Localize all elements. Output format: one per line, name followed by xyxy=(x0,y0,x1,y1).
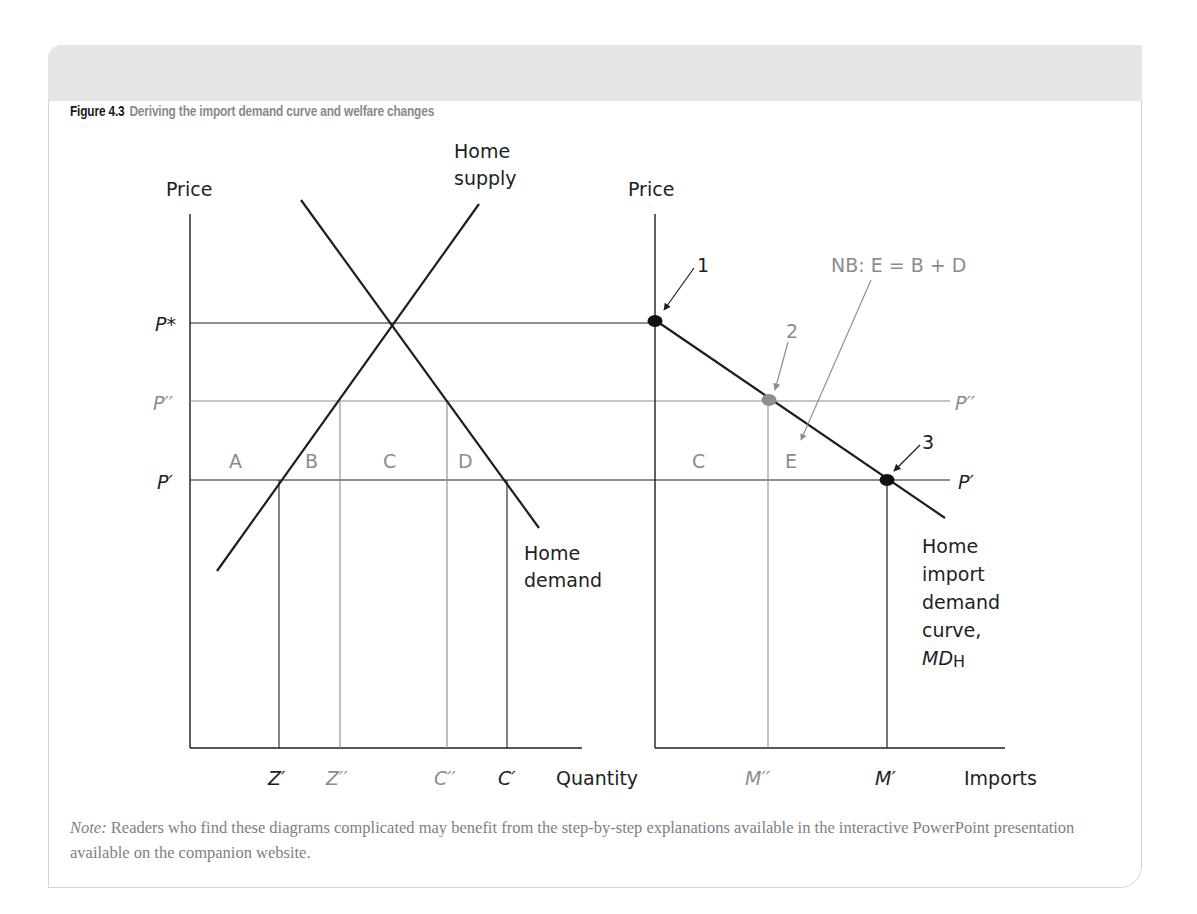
import-demand-curve xyxy=(655,320,945,518)
curve-label-symbol: MD xyxy=(922,647,953,669)
home-supply-curve xyxy=(217,204,479,571)
right-p-double-prime-label: P′′ xyxy=(955,392,976,414)
right-y-axis-label: Price xyxy=(628,178,674,200)
home-demand-curve xyxy=(301,200,539,528)
curve-label-4: curve, xyxy=(922,619,981,641)
m-double-prime-tick: M′′ xyxy=(745,767,771,789)
curve-label-subscript: H xyxy=(953,652,965,671)
right-panel: Price 1 2 3 NB: E = B + D P′′ P′ C E Hom… xyxy=(628,178,1037,789)
area-a-label: A xyxy=(229,450,242,472)
right-area-c-label: C xyxy=(692,450,705,472)
c-double-prime-tick: C′′ xyxy=(434,767,457,789)
point-3-arrow xyxy=(894,445,920,471)
right-x-axis-label: Imports xyxy=(964,767,1037,789)
area-c-label: C xyxy=(383,450,396,472)
z-prime-tick: Z′ xyxy=(267,767,286,789)
home-demand-label-1: Home xyxy=(524,542,580,564)
point-1-arrow xyxy=(664,268,694,310)
right-p-prime-label: P′ xyxy=(958,471,974,493)
home-demand-label-2: demand xyxy=(524,569,602,591)
c-prime-tick: C′ xyxy=(498,767,516,789)
note-label: Note: xyxy=(70,818,107,837)
left-x-axis-label: Quantity xyxy=(556,767,638,789)
curve-label-2: import xyxy=(922,563,985,585)
point-1-marker xyxy=(648,315,663,327)
home-supply-label-2: supply xyxy=(454,167,517,189)
m-prime-tick: M′ xyxy=(875,767,896,789)
area-b-label: B xyxy=(305,450,318,472)
note-text: Readers who find these diagrams complica… xyxy=(70,818,1074,862)
figure-chart: Price Home supply Home demand P* P′′ P′ … xyxy=(0,0,1197,914)
point-3-label: 3 xyxy=(922,431,934,453)
left-panel: Price Home supply Home demand P* P′′ P′ … xyxy=(153,140,950,789)
left-y-axis-label: Price xyxy=(166,178,212,200)
nb-annotation: NB: E = B + D xyxy=(831,254,966,276)
figure-note: Note: Readers who find these diagrams co… xyxy=(70,815,1110,865)
point-2-marker xyxy=(762,394,777,406)
p-double-prime-label: P′′ xyxy=(153,392,174,414)
home-supply-label-1: Home xyxy=(454,140,510,162)
point-2-arrow xyxy=(775,342,788,390)
point-1-label: 1 xyxy=(697,254,709,276)
nb-annotation-arrow xyxy=(801,280,871,440)
z-double-prime-tick: Z′′ xyxy=(325,767,348,789)
p-star-label: P* xyxy=(155,313,176,335)
p-prime-label: P′ xyxy=(157,471,173,493)
area-e-label: E xyxy=(785,450,797,472)
point-3-marker xyxy=(880,474,895,486)
curve-label-1: Home xyxy=(922,535,978,557)
area-d-label: D xyxy=(458,450,473,472)
point-2-label: 2 xyxy=(786,320,798,342)
curve-label-md: MDH xyxy=(922,647,965,671)
curve-label-3: demand xyxy=(922,591,1000,613)
